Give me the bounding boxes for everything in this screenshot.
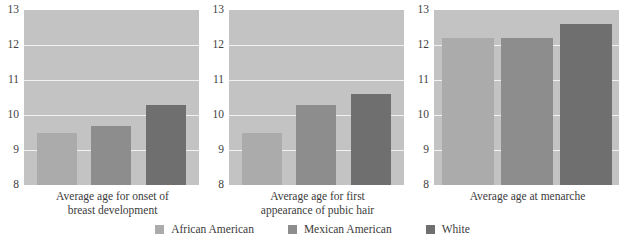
- y-axis-tick-labels-panel-2: 13 12 11 10 9 8: [205, 10, 227, 185]
- plot-area-panel-3: [434, 10, 619, 185]
- y-tick-label: 11: [8, 74, 19, 86]
- y-tick-label: 11: [418, 74, 429, 86]
- plot-area-panel-1: [24, 10, 199, 185]
- y-tick-label: 11: [213, 74, 224, 86]
- y-axis-tick-labels-panel-1: 13 12 11 10 9 8: [0, 10, 22, 185]
- panel-breast-development: 13 12 11 10 9 8: [0, 0, 205, 212]
- plot-area-panel-2: [229, 10, 404, 185]
- panel-caption-line: Average age at menarche: [432, 190, 623, 204]
- bar-group-panel-1: [24, 10, 199, 185]
- panel-caption-line: Average age for onset of: [22, 190, 203, 204]
- axes-panel-1: 13 12 11 10 9 8: [0, 10, 199, 185]
- panel-caption-2: Average age for first appearance of pubi…: [227, 190, 408, 217]
- bar-mexican-american: [501, 38, 553, 185]
- y-tick-label: 13: [8, 4, 20, 16]
- bar-mexican-american: [91, 126, 131, 186]
- legend-label: White: [442, 224, 470, 236]
- legend-label: African American: [171, 224, 254, 236]
- y-tick-label: 8: [13, 179, 19, 191]
- bar-white: [351, 94, 391, 185]
- bar-mexican-american: [296, 105, 336, 186]
- bar-african-american: [242, 133, 282, 186]
- panel-caption-line: Average age for first: [227, 190, 408, 204]
- bar-group-panel-2: [229, 10, 404, 185]
- legend-swatch-icon: [155, 225, 164, 234]
- legend-item-african-american: African American: [155, 224, 254, 236]
- bar-african-american: [37, 133, 77, 186]
- panel-caption-1: Average age for onset of breast developm…: [22, 190, 203, 217]
- y-tick-label: 12: [213, 39, 225, 51]
- bar-group-panel-3: [434, 10, 619, 185]
- y-tick-label: 9: [13, 144, 19, 156]
- y-tick-label: 8: [423, 179, 429, 191]
- y-tick-label: 10: [8, 109, 20, 121]
- panel-menarche: 13 12 11 10 9 8: [410, 0, 625, 212]
- grouped-bar-chart-figure: 13 12 11 10 9 8: [0, 0, 625, 247]
- bar-african-american: [442, 38, 494, 185]
- axes-panel-2: 13 12 11 10 9 8: [205, 10, 404, 185]
- legend-item-mexican-american: Mexican American: [288, 224, 392, 236]
- y-tick-label: 12: [8, 39, 20, 51]
- y-tick-label: 9: [423, 144, 429, 156]
- y-tick-label: 9: [218, 144, 224, 156]
- bar-white: [146, 105, 186, 186]
- y-tick-label: 8: [218, 179, 224, 191]
- legend-swatch-icon: [288, 225, 297, 234]
- y-tick-label: 13: [213, 4, 225, 16]
- legend-label: Mexican American: [304, 224, 392, 236]
- axes-panel-3: 13 12 11 10 9 8: [410, 10, 619, 185]
- y-tick-label: 10: [213, 109, 225, 121]
- bar-white: [560, 24, 612, 185]
- y-tick-label: 13: [418, 4, 430, 16]
- panel-caption-line: appearance of pubic hair: [227, 204, 408, 218]
- y-axis-tick-labels-panel-3: 13 12 11 10 9 8: [410, 10, 432, 185]
- legend-swatch-icon: [426, 225, 435, 234]
- panels-row: 13 12 11 10 9 8: [0, 0, 625, 212]
- panel-pubic-hair: 13 12 11 10 9 8: [205, 0, 410, 212]
- panel-caption-3: Average age at menarche: [432, 190, 623, 204]
- y-tick-label: 12: [418, 39, 430, 51]
- chart-legend: African American Mexican American White: [0, 224, 625, 236]
- legend-item-white: White: [426, 224, 470, 236]
- y-tick-label: 10: [418, 109, 430, 121]
- panel-caption-line: breast development: [22, 204, 203, 218]
